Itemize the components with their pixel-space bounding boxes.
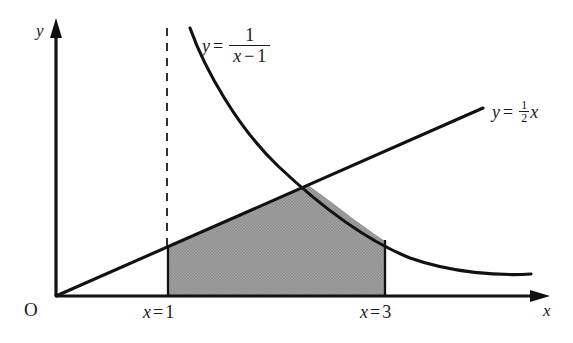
tick-label-x3-var: x [360, 302, 368, 322]
y-axis-arrowhead [50, 18, 62, 38]
x-axis-label: x [543, 302, 551, 319]
line-label-frac-denominator: 2 [519, 111, 529, 124]
shaded-region [168, 185, 385, 296]
hyperbola-label-equals: = [210, 37, 228, 55]
tick-label-x1-equals: = [151, 302, 165, 322]
tick-label-x1-var: x [143, 302, 151, 322]
tick-label-x-equals-3: x=3 [360, 303, 391, 321]
origin-label: O [24, 300, 38, 319]
hyperbola-label-fraction: 1 x−1 [229, 26, 270, 65]
line-label-lhs: y [492, 103, 500, 121]
tick-label-x-equals-1: x=1 [143, 303, 174, 321]
line-equation-label: y= 1 2 x [492, 99, 538, 124]
hyperbola-den-operator: − [241, 46, 257, 66]
tick-label-x1-value: 1 [165, 302, 174, 322]
hyperbola-den-constant: 1 [257, 46, 266, 66]
tick-label-x3-equals: = [368, 302, 382, 322]
line-label-trailing-var: x [530, 103, 538, 121]
line-label-frac-numerator: 1 [519, 99, 529, 111]
line-label-equals: = [500, 103, 518, 121]
coordinate-plot-svg [0, 0, 573, 343]
y-axis-label: y [36, 22, 44, 39]
line-label-half-fraction: 1 2 [519, 99, 529, 124]
hyperbola-den-var: x [233, 46, 241, 66]
hyperbola-label-lhs: y [202, 37, 210, 55]
hyperbola-equation-label: y= 1 x−1 [202, 26, 271, 65]
hyperbola-label-numerator: 1 [241, 26, 258, 45]
figure-canvas: y x O x=1 x=3 y= 1 x−1 y= 1 2 x [0, 0, 573, 343]
hyperbola-label-denominator: x−1 [229, 45, 270, 65]
tick-label-x3-value: 3 [382, 302, 391, 322]
